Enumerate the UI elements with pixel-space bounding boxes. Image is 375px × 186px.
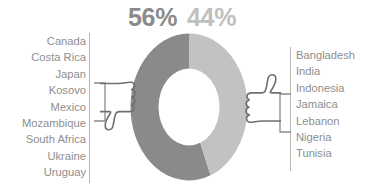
- list-item: Costa Rica: [22, 49, 86, 65]
- list-item: Jamaica: [296, 96, 355, 112]
- list-item: Kosovo: [22, 82, 86, 98]
- left-list-divider: [89, 33, 90, 183]
- list-item: Ukraine: [22, 148, 86, 164]
- list-item: Uruguay: [22, 164, 86, 180]
- list-item: Mozambique: [22, 115, 86, 131]
- thumbs-up-icon: [233, 73, 281, 125]
- list-item: Mexico: [22, 99, 86, 115]
- list-item: South Africa: [22, 131, 86, 147]
- list-item: Nigeria: [296, 129, 355, 145]
- list-item: Japan: [22, 66, 86, 82]
- list-item: India: [296, 63, 355, 79]
- positive-percent-label: 44%: [187, 2, 236, 32]
- list-item: Canada: [22, 33, 86, 49]
- negative-country-list: Canada Costa Rica Japan Kosovo Mexico Mo…: [22, 33, 86, 181]
- positive-country-list: Bangladesh India Indonesia Jamaica Leban…: [296, 47, 355, 162]
- list-item: Tunisia: [296, 145, 355, 161]
- list-item: Indonesia: [296, 80, 355, 96]
- infographic-canvas: 56% 44% Canada Costa Rica Japan Kosovo M…: [0, 0, 375, 186]
- list-item: Lebanon: [296, 113, 355, 129]
- list-item: Bangladesh: [296, 47, 355, 63]
- thumbs-down-icon: [100, 80, 148, 132]
- negative-percent-label: 56%: [128, 2, 177, 32]
